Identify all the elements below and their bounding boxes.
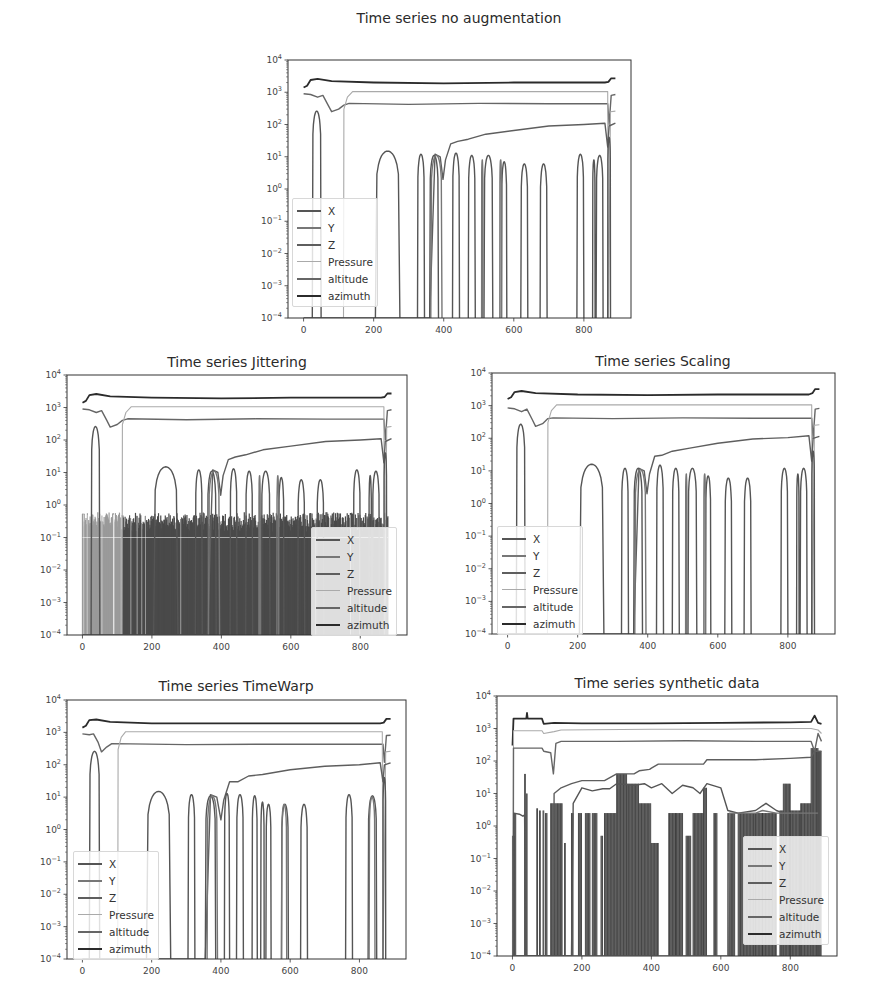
y-tick-label: 10−4 xyxy=(40,628,61,640)
series-azimuth xyxy=(508,389,820,399)
legend-swatch-line-icon xyxy=(316,607,340,609)
legend-item: Pressure xyxy=(316,582,392,599)
y-tick-label: 10−4 xyxy=(465,627,486,639)
y-tick-label: 101 xyxy=(45,466,61,478)
legend-label: azimuth xyxy=(347,619,390,631)
legend-label: X xyxy=(109,858,116,870)
x-tick-label: 400 xyxy=(643,963,660,973)
series-azimuth xyxy=(304,78,616,87)
series-altitude xyxy=(304,94,616,125)
legend-swatch-line-icon xyxy=(297,227,321,229)
chart-title: Time series TimeWarp xyxy=(158,678,313,694)
x-tick-label: 800 xyxy=(575,325,592,335)
x-tick-label: 0 xyxy=(80,642,86,652)
legend-swatch-line-icon xyxy=(297,244,321,246)
legend-label: Y xyxy=(347,551,353,563)
legend-swatch-line-icon xyxy=(748,899,772,900)
legend-item: Y xyxy=(78,872,154,889)
legend-label: Z xyxy=(779,877,786,889)
y-tick-label: 101 xyxy=(266,150,282,162)
legend-label: Z xyxy=(328,239,335,251)
y-tick-label: 10−2 xyxy=(40,887,61,899)
legend-label: Z xyxy=(347,568,354,580)
legend-label: azimuth xyxy=(328,290,371,302)
legend-swatch-line-icon xyxy=(502,572,526,574)
series-azimuth xyxy=(82,719,390,728)
x-tick-label: 200 xyxy=(143,966,160,976)
legend-swatch-line-icon xyxy=(316,624,340,626)
chart-title: Time series Jittering xyxy=(167,354,307,370)
x-tick-label: 600 xyxy=(712,963,729,973)
legend-item: Pressure xyxy=(78,906,154,923)
x-tick-label: 600 xyxy=(709,641,726,651)
y-tick-label: 104 xyxy=(475,689,491,701)
legend-item: Z xyxy=(297,236,373,253)
series-y xyxy=(431,155,502,318)
x-tick-label: 600 xyxy=(282,966,299,976)
legend-swatch-line-icon xyxy=(748,882,772,884)
x-tick-label: 200 xyxy=(569,641,586,651)
legend-label: X xyxy=(533,533,540,545)
y-tick-label: 101 xyxy=(475,787,491,799)
x-tick-label: 800 xyxy=(779,641,796,651)
x-tick-label: 200 xyxy=(365,325,382,335)
y-tick-label: 103 xyxy=(45,725,61,737)
legend-item: X xyxy=(297,202,373,219)
legend-item: azimuth xyxy=(502,615,578,632)
legend-item: azimuth xyxy=(748,925,824,942)
legend-swatch-line-icon xyxy=(748,848,772,850)
y-tick-label: 10−1 xyxy=(261,214,282,226)
y-tick-label: 100 xyxy=(45,823,61,835)
chart-title: Time series synthetic data xyxy=(574,675,759,691)
legend-swatch-line-icon xyxy=(297,295,321,297)
legend-label: Pressure xyxy=(347,585,392,597)
legend-label: Pressure xyxy=(779,894,824,906)
x-tick-label: 400 xyxy=(212,966,229,976)
x-tick-label: 800 xyxy=(351,966,368,976)
legend-swatch-line-icon xyxy=(316,539,340,541)
legend-item: Z xyxy=(748,874,824,891)
series-azimuth xyxy=(83,394,392,403)
legend: XYZPressurealtitudeazimuth xyxy=(311,527,397,636)
x-tick-label: 600 xyxy=(282,642,299,652)
legend-label: altitude xyxy=(109,926,149,938)
legend-swatch-line-icon xyxy=(748,865,772,867)
y-tick-label: 10−4 xyxy=(40,952,61,964)
legend-swatch-line-icon xyxy=(78,948,102,950)
series-altitude xyxy=(508,408,820,438)
y-tick-label: 102 xyxy=(45,433,61,445)
legend-label: altitude xyxy=(328,273,368,285)
y-tick-label: 104 xyxy=(45,368,61,380)
legend-swatch-line-icon xyxy=(502,589,526,590)
y-tick-label: 10−3 xyxy=(261,279,282,291)
legend-item: X xyxy=(316,531,392,548)
legend-label: X xyxy=(779,843,786,855)
legend-swatch-line-icon xyxy=(78,897,102,899)
y-tick-label: 103 xyxy=(470,399,486,411)
y-tick-label: 102 xyxy=(45,758,61,770)
y-tick-label: 10−2 xyxy=(465,562,486,574)
x-tick-label: 400 xyxy=(435,325,452,335)
legend-label: altitude xyxy=(533,601,573,613)
legend-item: Y xyxy=(297,219,373,236)
noise-band xyxy=(82,512,122,635)
x-tick-label: 400 xyxy=(639,641,656,651)
legend-swatch-line-icon xyxy=(316,556,340,558)
legend-item: Z xyxy=(78,889,154,906)
legend-item: altitude xyxy=(502,598,578,615)
series-altitude xyxy=(82,734,390,762)
legend-item: altitude xyxy=(297,270,373,287)
legend-item: Pressure xyxy=(297,253,373,270)
legend-swatch-line-icon xyxy=(748,933,772,935)
series-y xyxy=(635,470,706,635)
y-tick-label: 103 xyxy=(475,722,491,734)
y-tick-label: 10−3 xyxy=(40,920,61,932)
y-tick-label: 102 xyxy=(470,431,486,443)
y-tick-label: 103 xyxy=(266,85,282,97)
legend-swatch-line-icon xyxy=(502,623,526,625)
legend-item: Pressure xyxy=(748,891,824,908)
legend-item: X xyxy=(78,855,154,872)
y-tick-label: 10−1 xyxy=(470,852,491,864)
x-tick-label: 800 xyxy=(352,642,369,652)
y-tick-label: 10−3 xyxy=(465,594,486,606)
